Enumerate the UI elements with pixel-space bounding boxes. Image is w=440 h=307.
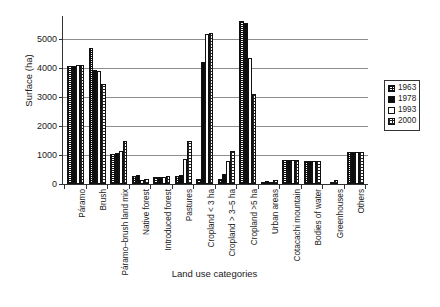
y-tick-label: 2000: [37, 121, 63, 131]
bar: [252, 94, 256, 184]
bar-group: [237, 16, 259, 184]
legend-label: 1993: [398, 106, 416, 114]
bar-group: [216, 16, 238, 184]
legend-label: 1963: [398, 84, 416, 92]
bar: [295, 160, 299, 184]
legend-item[interactable]: 1993: [388, 105, 416, 116]
x-label-cell: Introduced forest: [150, 189, 172, 257]
bar: [209, 33, 213, 184]
x-label-cell: Páramo–brush land mix: [107, 189, 129, 257]
legend-swatch-icon: [388, 96, 395, 103]
x-tick-label: Others: [357, 189, 366, 214]
x-label-cell: Cropland >5 ha: [236, 189, 258, 257]
bar-group: [151, 16, 173, 184]
bar: [123, 141, 127, 184]
bar-groups: [63, 16, 368, 184]
bar-group: [87, 16, 109, 184]
bar-group: [323, 16, 345, 184]
bar: [80, 65, 84, 184]
bar: [166, 176, 170, 184]
bar-group: [65, 16, 87, 184]
bar-group: [302, 16, 324, 184]
y-tick-label: 3000: [37, 92, 63, 102]
bar-group: [259, 16, 281, 184]
x-label-cell: Others: [344, 189, 366, 257]
x-label-cell: Brush: [86, 189, 108, 257]
legend-item[interactable]: 1978: [388, 94, 416, 105]
y-axis-title: Surface (ha): [23, 21, 34, 141]
x-label-cell: Cotacachi mountain: [279, 189, 301, 257]
legend-label: 1978: [398, 95, 416, 103]
bar-group: [108, 16, 130, 184]
x-label-cell: Cropland < 3 ha: [193, 189, 215, 257]
x-label-cell: Bodies of water: [301, 189, 323, 257]
legend-swatch-icon: [388, 107, 395, 114]
legend-item[interactable]: 2000: [388, 116, 416, 127]
x-axis-title: Land use categories: [62, 268, 367, 279]
bar-group: [173, 16, 195, 184]
legend-item[interactable]: 1963: [388, 83, 416, 94]
x-label-cell: Cropland > 3–5 ha: [215, 189, 237, 257]
x-axis-tick-labels: PáramoBrushPáramo–brush land mixNative f…: [62, 189, 367, 257]
bar-chart: Surface (ha) 010002000300040005000 Páram…: [0, 0, 440, 307]
x-label-cell: Pastures: [172, 189, 194, 257]
bar: [230, 151, 234, 184]
legend: 1963197819932000: [384, 80, 420, 131]
bar-group: [194, 16, 216, 184]
bar: [101, 84, 105, 184]
y-tick-label: 5000: [37, 34, 63, 44]
x-label-cell: Native forest: [129, 189, 151, 257]
bar: [316, 161, 320, 184]
legend-swatch-icon: [388, 118, 395, 125]
bar-group: [130, 16, 152, 184]
bar: [187, 141, 191, 184]
legend-swatch-icon: [388, 85, 395, 92]
bar: [359, 152, 363, 184]
bar-group: [280, 16, 302, 184]
x-label-cell: Greenhouses: [322, 189, 344, 257]
x-label-cell: Urban areas: [258, 189, 280, 257]
plot-area: 010002000300040005000: [62, 16, 368, 185]
y-tick-label: 1000: [37, 150, 63, 160]
y-tick-label: 4000: [37, 63, 63, 73]
legend-label: 2000: [398, 117, 416, 125]
bar-group: [345, 16, 367, 184]
x-label-cell: Páramo: [64, 189, 86, 257]
